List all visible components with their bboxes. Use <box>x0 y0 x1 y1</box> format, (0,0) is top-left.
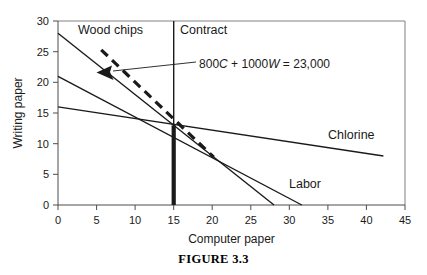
y-tick-label: 30 <box>37 15 49 27</box>
y-axis-ticks <box>53 21 58 205</box>
x-tick-label: 30 <box>283 214 295 226</box>
y-tick-label: 0 <box>43 199 49 211</box>
x-tick-label: 35 <box>322 214 334 226</box>
x-axis-tick-labels: 0 5 10 15 20 25 30 35 40 45 <box>55 214 411 226</box>
x-tick-label: 45 <box>399 214 411 226</box>
y-axis-tick-labels: 0 5 10 15 20 25 30 <box>37 15 49 211</box>
x-tick-label: 20 <box>206 214 218 226</box>
y-tick-label: 5 <box>43 168 49 180</box>
figure-caption-canvas: FIGURE 3.3 <box>0 246 427 275</box>
y-tick-label: 10 <box>37 138 49 150</box>
x-tick-label: 10 <box>129 214 141 226</box>
x-tick-label: 0 <box>55 214 61 226</box>
figure-caption: FIGURE 3.3 <box>178 252 248 266</box>
series-label-contract: Contract <box>180 23 228 37</box>
x-axis-title: Computer paper <box>188 232 275 246</box>
x-tick-label: 40 <box>360 214 372 226</box>
series-line-labor <box>58 76 302 205</box>
series-label-wood-chips: Wood chips <box>78 23 143 37</box>
isoprofit-equation-label: 800C + 1000W = 23,000 <box>199 57 330 71</box>
x-tick-label: 5 <box>94 214 100 226</box>
chart-canvas: 0 5 10 15 20 25 30 0 5 10 15 20 <box>0 0 427 275</box>
y-tick-label: 20 <box>37 76 49 88</box>
y-tick-label: 25 <box>37 46 49 58</box>
figure-container: 0 5 10 15 20 25 30 0 5 10 15 20 <box>0 0 427 275</box>
y-tick-label: 15 <box>37 107 49 119</box>
x-tick-label: 15 <box>168 214 180 226</box>
x-tick-label: 25 <box>245 214 257 226</box>
series-label-labor: Labor <box>289 177 321 191</box>
annotation-leader-line <box>113 62 196 71</box>
series-label-chlorine: Chlorine <box>328 128 375 142</box>
x-axis-ticks <box>58 205 405 210</box>
y-axis-title: Writing paper <box>11 77 25 148</box>
isoprofit-arrow-icon <box>97 66 114 81</box>
